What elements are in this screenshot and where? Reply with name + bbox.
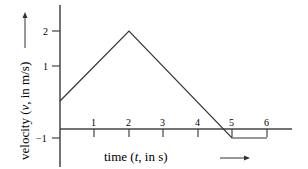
x-tick-label-3: 3 [160, 117, 165, 128]
y-tick-label-2: 2 [43, 26, 48, 37]
y-axis-label: velocity (v, in m/s) [17, 62, 32, 160]
y-tick-label-neg1: −1 [36, 133, 47, 144]
x-axis-label: time (t, in s) [104, 149, 168, 164]
x-tick-label-6: 6 [264, 117, 269, 128]
velocity-time-chart: 2 1 −1 1 2 3 4 5 6 time (t, in s) veloci… [0, 0, 308, 169]
y-tick-label-1: 1 [43, 61, 48, 72]
x-arrow-head-icon [244, 156, 250, 161]
x-tick-label-1: 1 [91, 117, 96, 128]
x-tick-label-2: 2 [126, 117, 131, 128]
x-tick-label-4: 4 [195, 117, 200, 128]
x-tick-label-5: 5 [229, 117, 234, 128]
y-arrow-head-icon [23, 12, 28, 18]
